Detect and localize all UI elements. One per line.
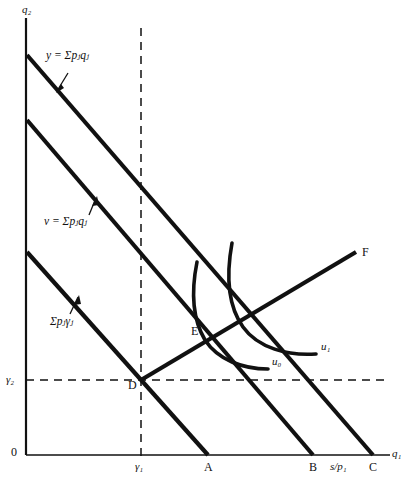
point-A-label: A — [204, 461, 213, 473]
point-F-label: F — [362, 246, 369, 258]
leader-arrow-gamma — [74, 295, 81, 305]
tick-gamma1: γ₁ — [135, 461, 143, 472]
indifference-curve-u0 — [194, 262, 268, 369]
budget-line-y-label: y = Σpⱼqⱼ — [46, 50, 89, 62]
point-B-label: B — [309, 461, 317, 473]
budget-line-v-label: v = Σpⱼqⱼ — [44, 216, 87, 228]
x-axis-label: q₁ — [392, 448, 401, 459]
figure-canvas: q₂ q₁ 0 y = Σpⱼqⱼ v = Σpⱼqⱼ Σpⱼγⱼ D E A … — [0, 0, 413, 480]
point-E-label: E — [191, 325, 198, 337]
budget-line-gamma — [27, 252, 208, 455]
point-D-label: D — [128, 379, 137, 391]
tick-s-over-p1: s/p₁ — [330, 461, 347, 472]
curve-u1-label: u₁ — [321, 341, 330, 352]
point-C-label: C — [369, 461, 377, 473]
budget-line-y — [27, 55, 373, 455]
budget-line-gamma-label: Σpⱼγⱼ — [50, 316, 73, 328]
curve-u0-label: u₀ — [272, 356, 281, 367]
tick-gamma2: γ₂ — [6, 374, 14, 385]
diagram-svg — [0, 0, 413, 480]
expansion-path-DF — [141, 252, 356, 380]
y-axis-label: q₂ — [22, 4, 31, 15]
budget-line-v — [27, 120, 313, 455]
origin-label: 0 — [11, 446, 17, 458]
